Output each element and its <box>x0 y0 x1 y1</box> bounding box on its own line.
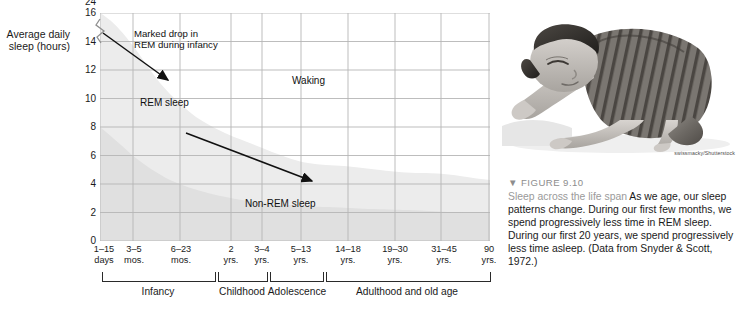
y-tick-6: 6 <box>74 151 96 161</box>
x-tick-1: 3–5 mos. <box>124 244 144 265</box>
stage-label-childhood: Childhood <box>219 286 265 298</box>
x-tick-9: 90 yrs. <box>482 244 497 265</box>
x-tick-7: 19–30 yrs. <box>382 244 408 265</box>
y-axis-break-symbol <box>94 15 108 49</box>
y-tick-0: 0 <box>74 236 96 246</box>
y-tick-12: 12 <box>74 65 96 75</box>
y-axis-tick-labels: 241614121086420 <box>72 13 96 241</box>
label-non-rem-sleep: Non-REM sleep <box>245 198 316 209</box>
x-tick-6: 14–18 yrs. <box>335 244 361 265</box>
y-tick-8: 8 <box>74 122 96 132</box>
sleep-chart-figure: Average daily sleep (hours) 241614121086… <box>0 0 500 320</box>
x-tick-8: 31–45 yrs. <box>431 244 457 265</box>
life-stage-labels: Infancy Childhood Adolescence Adulthood … <box>100 286 500 302</box>
stage-label-infancy: Infancy <box>142 286 175 298</box>
bracket-adolescence <box>270 272 324 282</box>
stage-label-adolescence: Adolescence <box>268 286 326 298</box>
bracket-infancy <box>102 272 216 282</box>
y-tick-16: 16 <box>74 8 96 18</box>
sleeping-child-photo <box>502 4 740 154</box>
figure-caption: ▼ FIGURE 9.10 Sleep across the life span… <box>508 176 740 269</box>
label-waking: Waking <box>292 75 325 86</box>
y-tick-4: 4 <box>74 179 96 189</box>
caption-text: Sleep across the life span As we age, ou… <box>508 190 740 269</box>
bracket-adulthood <box>326 272 491 282</box>
x-tick-5: 5–13 yrs. <box>291 244 311 265</box>
figure-right-column: swissmacky/Shutterstock ▼ FIGURE 9.10 Sl… <box>500 0 743 320</box>
x-tick-4: 3–4 yrs. <box>254 244 269 265</box>
figure-number-kicker: ▼ FIGURE 9.10 <box>508 176 740 189</box>
sleeping-child-illustration <box>502 4 740 154</box>
annotation-rem-drop: Marked drop in REM during infancy <box>134 28 218 51</box>
y-tick-14: 14 <box>74 37 96 47</box>
y-tick-10: 10 <box>74 94 96 104</box>
y-axis-title: Average daily sleep (hours) <box>2 28 70 53</box>
x-axis-tick-labels: 1–15 days3–5 mos.6–23 mos.2 yrs.3–4 yrs.… <box>100 244 500 270</box>
caption-body-text: As we age, our sleep patterns change. Du… <box>508 191 733 267</box>
label-rem-sleep: REM sleep <box>140 97 189 108</box>
x-tick-3: 2 yrs. <box>224 244 239 265</box>
x-tick-2: 6–23 mos. <box>171 244 191 265</box>
y-tick-2: 2 <box>74 208 96 218</box>
x-tick-0: 1–15 days <box>94 244 114 265</box>
y-tick-24: 24 <box>74 0 96 7</box>
stage-label-adulthood: Adulthood and old age <box>356 286 458 298</box>
bracket-childhood <box>218 272 268 282</box>
caption-lead-in: Sleep across the life span <box>508 191 627 202</box>
photo-credit: swissmacky/Shutterstock <box>674 150 735 156</box>
plot-wrapper: Marked drop in REM during infancy REM sl… <box>100 13 490 241</box>
